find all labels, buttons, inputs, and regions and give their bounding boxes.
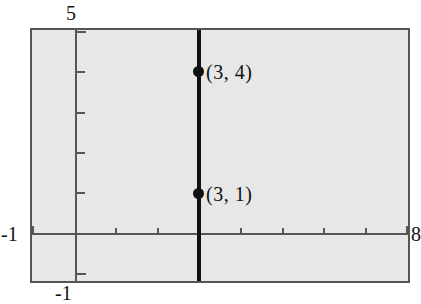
x-axis-right-cap (406, 226, 408, 235)
x-axis-tick (240, 228, 242, 235)
x-axis-tick (282, 228, 284, 235)
data-point (193, 188, 204, 199)
x-axis-tick (323, 228, 325, 235)
x-axis-tick (157, 228, 159, 235)
y-axis-tick (76, 152, 85, 154)
y-axis (75, 30, 77, 281)
y-axis-max-label: 5 (66, 2, 76, 25)
data-point (193, 66, 204, 77)
y-axis-bottom-cap (76, 273, 86, 275)
x-axis-tick (365, 228, 367, 235)
y-axis-tick (76, 112, 85, 114)
data-point-label: (3, 1) (206, 183, 252, 206)
y-axis-min-label: -1 (1, 223, 18, 246)
x-axis (32, 233, 408, 235)
data-point-label: (3, 4) (206, 61, 252, 84)
y-axis-tick (76, 192, 85, 194)
x-axis-min-label: -1 (55, 282, 72, 304)
x-axis-max-label: 8 (411, 223, 421, 246)
y-axis-tick (76, 71, 85, 73)
y-axis-top-cap (76, 31, 86, 33)
x-axis-tick (115, 228, 117, 235)
x-axis-left-cap (32, 226, 34, 235)
